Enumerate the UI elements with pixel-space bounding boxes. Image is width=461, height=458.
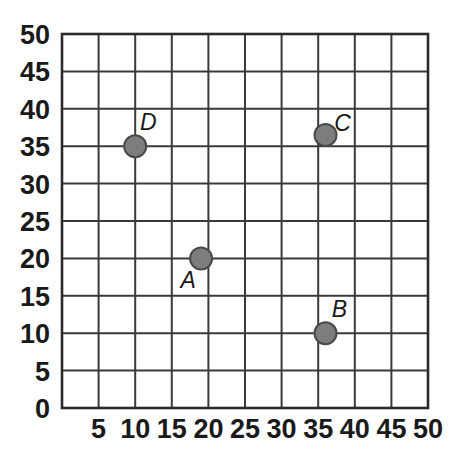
x-axis-tick-label: 45 [376, 414, 406, 444]
x-axis-tick-label: 20 [193, 414, 223, 444]
data-point-d [124, 135, 146, 157]
plot-canvas: 510152025303540455005101520253035404550A… [0, 0, 461, 458]
y-axis-tick-label: 45 [20, 57, 50, 87]
y-axis-tick-label: 25 [20, 207, 50, 237]
y-axis-tick-label: 15 [20, 282, 50, 312]
x-axis-tick-label: 25 [230, 414, 260, 444]
scatter-plot-figure: 510152025303540455005101520253035404550A… [0, 0, 461, 458]
x-axis-tick-label: 35 [303, 414, 333, 444]
y-axis-tick-label: 5 [35, 357, 50, 387]
data-point-label-c: C [334, 110, 351, 136]
data-point-b [315, 322, 337, 344]
y-axis-tick-label: 50 [20, 20, 50, 50]
y-axis-tick-label: 20 [20, 244, 50, 274]
x-axis-tick-label: 15 [157, 414, 187, 444]
y-axis-tick-label: 0 [35, 394, 50, 424]
x-axis-tick-label: 10 [120, 414, 150, 444]
x-axis-tick-labels: 5101520253035404550 [91, 414, 443, 444]
x-axis-tick-label: 30 [267, 414, 297, 444]
data-point-a [190, 247, 212, 269]
y-axis-tick-label: 30 [20, 170, 50, 200]
y-axis-tick-labels: 05101520253035404550 [20, 20, 50, 424]
x-axis-tick-label: 40 [340, 414, 370, 444]
grid-lines [62, 34, 428, 408]
data-point-label-d: D [140, 109, 157, 135]
x-axis-tick-label: 5 [91, 414, 106, 444]
data-point-label-b: B [332, 296, 347, 322]
y-axis-tick-label: 35 [20, 132, 50, 162]
data-points: ABCD [124, 109, 351, 344]
data-point-label-a: A [178, 267, 195, 293]
y-axis-tick-label: 40 [20, 95, 50, 125]
y-axis-tick-label: 10 [20, 319, 50, 349]
x-axis-tick-label: 50 [413, 414, 443, 444]
